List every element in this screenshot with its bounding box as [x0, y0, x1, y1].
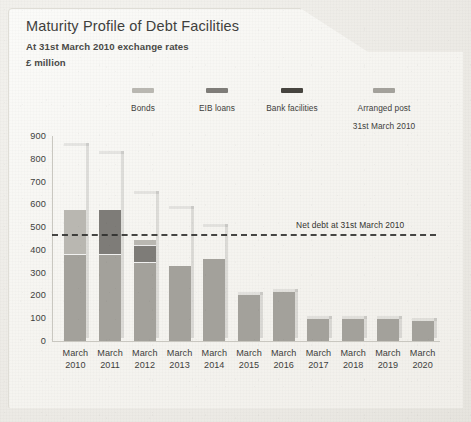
- bar-segment: [238, 295, 260, 341]
- bar-segment: [134, 262, 156, 341]
- bar-segment-divider: [99, 254, 121, 255]
- bar-3[interactable]: [169, 209, 191, 341]
- y-axis-tick-label: 500: [12, 222, 46, 232]
- bar-10[interactable]: [412, 321, 434, 342]
- bar-side-shade: [156, 191, 159, 338]
- bar-segment: [203, 259, 225, 341]
- bar-5[interactable]: [238, 295, 260, 341]
- bar-side-shade: [295, 289, 298, 338]
- y-axis-tick-label: 100: [12, 313, 46, 323]
- y-axis-tick-label: 0: [12, 336, 46, 346]
- bar-7[interactable]: [307, 319, 329, 341]
- chart-page: Maturity Profile of Debt Facilities At 3…: [0, 0, 471, 422]
- bar-segment: [64, 254, 86, 341]
- bar-6[interactable]: [273, 292, 295, 341]
- bar-segment: [412, 321, 434, 342]
- bar-2[interactable]: [134, 194, 156, 341]
- bar-segment: [342, 319, 364, 341]
- bar-segment: [377, 319, 399, 341]
- bar-side-shade: [399, 316, 402, 338]
- y-axis-tick-label: 700: [12, 177, 46, 187]
- x-axis-tick-label: March 2020: [395, 348, 451, 371]
- y-axis-tick-label: 900: [12, 131, 46, 141]
- chart-plot-area: 0100200300400500600700800900March 2010Ma…: [0, 0, 455, 400]
- bar-segment-divider: [134, 262, 156, 263]
- bar-1[interactable]: [99, 154, 121, 341]
- bar-segment: [64, 210, 86, 254]
- bar-side-shade: [225, 224, 228, 338]
- bar-segment: [134, 245, 156, 262]
- bar-side-shade: [121, 151, 124, 338]
- y-axis-tick-label: 600: [12, 199, 46, 209]
- bar-side-shade: [434, 318, 437, 339]
- bar-segment: [307, 319, 329, 341]
- net-debt-reference-label: Net debt at 31st March 2010: [296, 220, 404, 230]
- net-debt-reference-line: [52, 234, 436, 236]
- bar-segment-divider: [134, 245, 156, 246]
- y-axis-tick-label: 200: [12, 290, 46, 300]
- y-axis-tick-label: 300: [12, 268, 46, 278]
- bar-4[interactable]: [203, 227, 225, 341]
- y-axis-tick-label: 400: [12, 245, 46, 255]
- bar-segment: [99, 210, 121, 254]
- bar-segment: [99, 254, 121, 341]
- bar-9[interactable]: [377, 319, 399, 341]
- bar-segment: [169, 266, 191, 341]
- bar-segment-divider: [64, 254, 86, 255]
- bar-side-shade: [329, 316, 332, 338]
- bar-8[interactable]: [342, 319, 364, 341]
- y-axis-tick-label: 800: [12, 154, 46, 164]
- x-axis-line: [52, 341, 440, 342]
- bar-side-shade: [86, 143, 89, 338]
- bar-side-shade: [364, 316, 367, 338]
- bar-side-shade: [260, 292, 263, 338]
- bar-segment: [273, 292, 295, 341]
- bar-0[interactable]: [64, 146, 86, 341]
- bar-side-shade: [191, 206, 194, 338]
- y-axis-line: [52, 136, 53, 341]
